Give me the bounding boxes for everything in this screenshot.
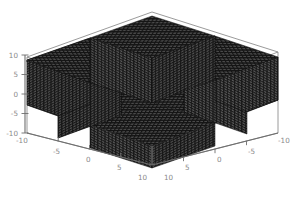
z-tick-label-n5: -5 [11,109,18,118]
x-tick-label-0: 0 [86,155,91,164]
x-tick-label-5: 5 [117,163,122,172]
y-tick-label-n5: -5 [248,147,255,156]
x-tick-label-10: 10 [138,173,148,182]
y-tick-label-n10: -10 [278,136,290,145]
surface-plot-figure: 10 5 0 -5 -10 -10 -5 0 5 10 10 5 0 [0,0,299,201]
z-tick-label-0: 0 [13,90,18,99]
y-tick-label-0: 0 [217,155,222,164]
y-tick-label-10: 10 [164,173,174,182]
z-tick-label-10: 10 [9,51,19,60]
z-tick-label-5: 5 [13,70,18,79]
x-tick-label-n5: -5 [53,147,60,156]
plot-canvas: 10 5 0 -5 -10 -10 -5 0 5 10 10 5 0 [0,0,299,201]
z-axis: 10 5 0 -5 -10 [6,51,28,138]
x-tick-label-n10: -10 [16,136,28,145]
y-tick-label-5: 5 [185,163,190,172]
